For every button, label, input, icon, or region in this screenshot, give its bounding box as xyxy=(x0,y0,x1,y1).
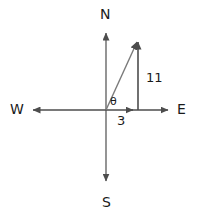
axis-label-west: W xyxy=(10,102,24,116)
axis-label-north: N xyxy=(100,7,110,21)
axis-label-east: E xyxy=(177,102,186,116)
angle-label-theta: θ xyxy=(110,96,117,107)
compass-vector-figure: N S W E 11 3 θ xyxy=(0,0,197,218)
side-length-label-vertical: 11 xyxy=(146,71,163,84)
side-length-label-horizontal: 3 xyxy=(117,114,125,127)
axis-label-south: S xyxy=(102,195,111,209)
diagram-canvas xyxy=(0,0,197,218)
